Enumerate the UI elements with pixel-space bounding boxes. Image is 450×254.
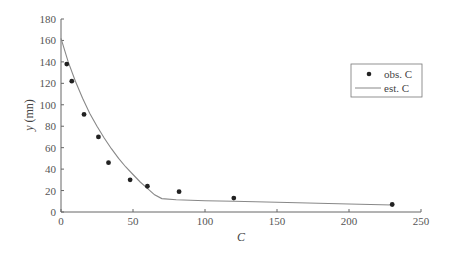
y-tick-label: 160 bbox=[40, 34, 57, 46]
obs-point bbox=[145, 184, 150, 189]
y-tick-label: 80 bbox=[45, 120, 57, 132]
y-tick-label: 60 bbox=[45, 142, 57, 154]
y-tick-label: 40 bbox=[45, 163, 57, 175]
obs-point bbox=[96, 135, 101, 140]
y-tick-label: 0 bbox=[51, 206, 57, 218]
legend: obs. C est. C bbox=[351, 64, 422, 97]
x-axis-title: C bbox=[237, 230, 246, 244]
y-tick-label: 140 bbox=[40, 56, 57, 68]
y-tick-label: 180 bbox=[40, 13, 57, 25]
x-tick-label: 50 bbox=[128, 215, 140, 227]
legend-marker-obs bbox=[367, 72, 372, 77]
plot-area bbox=[61, 38, 395, 207]
obs-point bbox=[128, 177, 133, 182]
y-tick-label: 20 bbox=[45, 185, 57, 197]
obs-point bbox=[64, 62, 69, 67]
axes: 050100150200250020406080100120140160180 bbox=[40, 13, 430, 227]
x-tick-label: 200 bbox=[341, 215, 358, 227]
obs-point bbox=[390, 202, 395, 207]
x-tick-label: 100 bbox=[197, 215, 214, 227]
y-tick-label: 100 bbox=[40, 99, 57, 111]
y-axis-title: y (mn) bbox=[22, 99, 36, 132]
obs-point bbox=[82, 112, 87, 117]
y-tick-label: 120 bbox=[40, 77, 57, 89]
chart: 050100150200250020406080100120140160180 … bbox=[0, 0, 450, 254]
x-tick-label: 0 bbox=[58, 215, 64, 227]
obs-point bbox=[177, 189, 182, 194]
obs-point bbox=[69, 79, 74, 84]
est-curve bbox=[61, 38, 392, 205]
legend-label-est: est. C bbox=[384, 82, 409, 94]
x-tick-label: 150 bbox=[269, 215, 286, 227]
x-tick-label: 250 bbox=[413, 215, 430, 227]
legend-label-obs: obs. C bbox=[384, 68, 412, 80]
obs-point bbox=[106, 160, 111, 165]
obs-point bbox=[231, 196, 236, 201]
